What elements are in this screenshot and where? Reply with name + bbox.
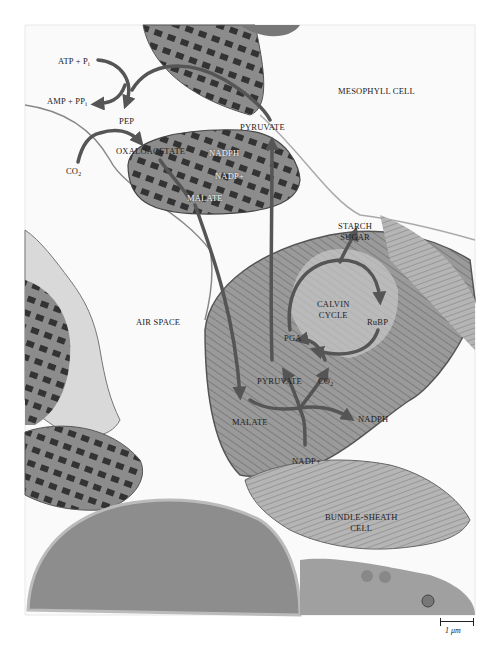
label-malate-mesophyll: MALATE bbox=[187, 194, 223, 203]
label-calvin-cycle: CALVIN CYCLE bbox=[317, 300, 350, 319]
label-pga: PGA bbox=[284, 334, 302, 343]
label-nadp-bundle-sheath: NADP+ bbox=[292, 457, 321, 466]
label-pep: PEP bbox=[119, 117, 134, 126]
label-oxaloacetate: OXALOACETATE bbox=[116, 147, 185, 156]
label-co2-bundle-sheath: CO2 bbox=[318, 377, 333, 387]
label-nadph-bundle-sheath: NADPH bbox=[358, 415, 388, 424]
micrograph-figure: ATP + Pi AMP + PPi PEP CO2 OXALOACETATE … bbox=[0, 0, 498, 653]
organelle bbox=[422, 595, 434, 607]
label-pyruvate-bundle-sheath: PYRUVATE bbox=[257, 377, 302, 386]
label-nadp-mesophyll: NADP+ bbox=[215, 172, 244, 181]
label-starch-sugar: STARCH SUGAR bbox=[338, 222, 372, 241]
arrow-pyruvate-to-mesophyll bbox=[271, 142, 272, 360]
label-co2-mesophyll: CO2 bbox=[66, 167, 81, 177]
label-air-space: AIR SPACE bbox=[136, 318, 180, 327]
label-pyruvate-mesophyll: PYRUVATE bbox=[240, 123, 285, 132]
label-bundle-sheath-cell: BUNDLE-SHEATH CELL bbox=[325, 513, 397, 532]
label-amp-ppi: AMP + PPi bbox=[47, 97, 87, 107]
label-atp-pi: ATP + Pi bbox=[58, 57, 90, 67]
scale-bar-label: 1 μm bbox=[445, 626, 461, 635]
label-mesophyll-cell: MESOPHYLL CELL bbox=[338, 87, 415, 96]
organelle bbox=[361, 570, 373, 582]
label-malate-bundle-sheath: MALATE bbox=[232, 418, 268, 427]
label-nadph-mesophyll: NADPH bbox=[209, 149, 239, 158]
organelle bbox=[379, 571, 391, 583]
label-rubp: RuBP bbox=[367, 318, 388, 327]
